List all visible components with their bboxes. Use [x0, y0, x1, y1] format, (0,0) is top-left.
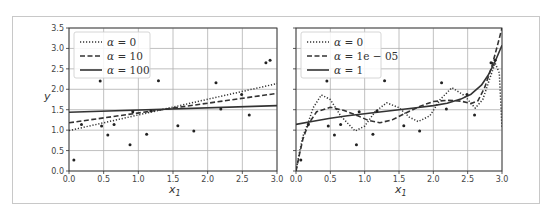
y-tick-label: 3.0: [51, 44, 64, 53]
right-plot-panel: 0.00.51.01.52.02.53.0 α = 0α = 1e − 05α …: [290, 28, 509, 198]
x-tick-label: 0.0: [290, 175, 303, 184]
y-tick-label: 1.5: [51, 106, 64, 115]
data-point: [494, 59, 497, 62]
y-tick-label: 0.0: [51, 167, 64, 176]
data-point: [157, 79, 160, 82]
x-tick-label: 1.0: [132, 175, 145, 184]
left-y-axis-label: y: [43, 90, 51, 103]
y-tick-label: 1.0: [51, 126, 64, 135]
data-point: [100, 125, 103, 128]
x-tick-label: 3.0: [496, 175, 509, 184]
legend-label: α = 1: [334, 64, 363, 76]
data-point: [113, 123, 116, 126]
x-tick-label: 0.5: [97, 175, 110, 184]
figure: 0.00.51.01.52.02.53.00.00.51.01.52.02.53…: [0, 0, 551, 213]
left-x-axis-label-sub: 1: [176, 189, 181, 198]
data-point: [445, 107, 448, 110]
data-point: [176, 124, 179, 127]
data-point: [129, 143, 132, 146]
data-point: [465, 93, 468, 96]
data-point: [473, 114, 476, 117]
data-point: [269, 59, 272, 62]
data-point: [371, 133, 374, 136]
left-plot-panel: 0.00.51.01.52.02.53.00.00.51.01.52.02.53…: [43, 24, 283, 198]
legend-label: α = 0: [334, 36, 363, 48]
data-point: [383, 79, 386, 82]
data-point: [240, 93, 243, 96]
legend-label: α = 10: [107, 50, 143, 62]
data-point: [99, 80, 102, 83]
data-point: [149, 109, 152, 112]
right-legend: α = 0α = 1e − 05α = 1: [301, 32, 398, 78]
data-point: [131, 110, 134, 113]
x-tick-label: 1.0: [358, 175, 371, 184]
data-point: [264, 61, 267, 64]
y-tick-label: 2.5: [51, 65, 64, 74]
data-point: [80, 123, 83, 126]
left-legend: α = 0α = 10α = 100: [74, 32, 150, 78]
data-point: [333, 134, 336, 137]
legend-label: α = 1e − 05: [334, 50, 398, 62]
data-point: [418, 129, 421, 132]
y-tick-label: 2.0: [51, 85, 64, 94]
x-tick-label: 3.0: [271, 175, 284, 184]
x-tick-label: 0.0: [63, 175, 76, 184]
data-point: [440, 81, 443, 84]
data-point: [299, 158, 302, 161]
data-point: [72, 158, 75, 161]
data-point: [490, 61, 493, 64]
data-point: [327, 125, 330, 128]
data-point: [355, 143, 358, 146]
x-tick-label: 2.5: [461, 175, 474, 184]
data-point: [376, 109, 379, 112]
x-tick-label: 0.5: [324, 175, 337, 184]
data-point: [219, 107, 222, 110]
right-x-axis-label: x1: [394, 183, 407, 198]
data-point: [307, 123, 310, 126]
x-tick-label: 2.0: [201, 175, 214, 184]
legend-label: α = 100: [107, 64, 150, 76]
data-point: [402, 124, 405, 127]
left-x-axis-label: x1: [168, 183, 181, 198]
data-point: [106, 134, 109, 137]
data-point: [358, 110, 361, 113]
data-point: [325, 80, 328, 83]
y-tick-label: 0.5: [51, 147, 64, 156]
data-point: [214, 81, 217, 84]
data-point: [145, 133, 148, 136]
legend-label: α = 0: [107, 36, 136, 48]
x-tick-label: 2.0: [427, 175, 440, 184]
data-point: [248, 114, 251, 117]
right-x-axis-label-sub: 1: [402, 189, 407, 198]
data-point: [192, 129, 195, 132]
y-tick-label: 3.5: [51, 24, 64, 33]
data-point: [339, 123, 342, 126]
x-tick-label: 2.5: [236, 175, 249, 184]
